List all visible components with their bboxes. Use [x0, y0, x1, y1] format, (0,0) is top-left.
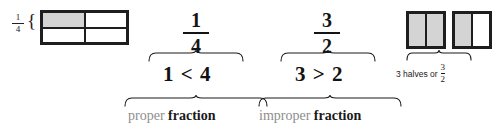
left-model-fraction-label: 1 4	[12, 13, 24, 34]
left-label-denominator: 4	[12, 25, 24, 34]
proper-fraction-numerator: 1	[183, 10, 209, 30]
improper-fraction-caption-strong: fraction	[314, 108, 361, 123]
improper-fraction-brace-top	[280, 50, 376, 62]
grid-cell	[85, 28, 128, 44]
fraction-diagram: 1 4 { 1 4 1 < 4 proper fraction 3 2 3 > …	[0, 0, 501, 131]
improper-fraction-caption-soft: improper	[259, 108, 310, 123]
halves-bar-partial	[452, 11, 492, 49]
improper-fraction-numerator: 3	[314, 10, 340, 30]
half-cell-shaded	[408, 13, 426, 47]
grid-cell	[42, 28, 85, 44]
halves-caption-numerator: 3	[441, 63, 446, 72]
proper-fraction-caption-soft: proper	[128, 108, 165, 123]
left-label-numerator: 1	[12, 13, 24, 22]
improper-fraction-comparison: 3 > 2	[295, 64, 343, 85]
half-cell	[472, 13, 490, 47]
quarters-grid-model	[40, 10, 129, 45]
proper-fraction-caption-strong: fraction	[168, 108, 215, 123]
proper-fraction-comparison: 1 < 4	[163, 64, 211, 85]
proper-fraction-brace-top	[148, 50, 244, 62]
grid-cell-shaded	[42, 12, 85, 28]
improper-fraction-bar	[314, 32, 340, 34]
proper-fraction-bar	[183, 32, 209, 34]
halves-caption-text: 3 halves or	[396, 69, 438, 79]
grid-cell	[85, 12, 128, 28]
proper-fraction-caption: proper fraction	[128, 109, 215, 123]
improper-fraction-caption: improper fraction	[259, 109, 361, 123]
half-cell-shaded	[454, 13, 472, 47]
halves-caption-fraction: 3 2	[441, 63, 446, 84]
improper-fraction-brace-bottom	[258, 95, 402, 107]
proper-fraction-brace-bottom	[124, 95, 268, 107]
halves-caption: 3 halves or 3 2	[396, 63, 445, 84]
left-model-curly-brace: {	[27, 11, 36, 30]
halves-brace	[406, 50, 473, 61]
halves-bar-full	[406, 11, 446, 49]
half-cell-shaded	[426, 13, 444, 47]
halves-caption-denominator: 2	[441, 75, 446, 84]
